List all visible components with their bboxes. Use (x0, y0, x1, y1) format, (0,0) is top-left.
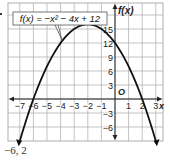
x-tick-label: −3 (69, 101, 79, 111)
y-tick-label: 6 (108, 67, 113, 77)
y-tick-label: −6 (103, 123, 113, 133)
x-tick-label: −5 (42, 101, 52, 111)
x-tick-label: −2 (83, 101, 93, 111)
x-tick-label: −7 (15, 101, 25, 111)
y-tick-label: 9 (108, 53, 113, 63)
x-tick-label: 3 (153, 101, 158, 111)
x-axis-label: x (158, 101, 165, 111)
origin-label: O (118, 87, 125, 97)
answer-text: −6, 2 (4, 144, 27, 156)
y-tick-label: 15 (103, 25, 113, 35)
x-tick-label: 1 (126, 101, 131, 111)
function-label: f(x) = −x² − 4x + 12 (20, 13, 101, 24)
x-tick-label: −4 (55, 101, 65, 111)
y-tick-label: 12 (103, 39, 113, 49)
y-tick-label: −3 (103, 109, 113, 119)
y-tick-label: 3 (108, 81, 113, 91)
graph: −7−6−5−4−3−2−1123−6−33691215xf(x)Of(x) =… (0, 0, 170, 161)
y-axis-label: f(x) (118, 5, 134, 16)
